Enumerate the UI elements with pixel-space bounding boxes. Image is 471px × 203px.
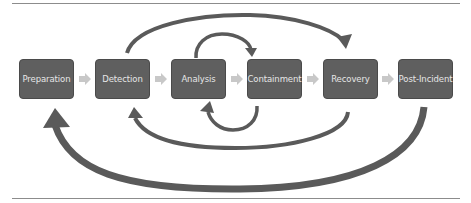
right-arrow-icon xyxy=(382,73,394,85)
arrow-recovery-to-detection xyxy=(128,107,348,148)
step-label: Detection xyxy=(102,74,142,84)
step-label: Containment xyxy=(248,74,302,84)
arrow-containment-to-analysis xyxy=(200,101,257,130)
right-arrow-icon xyxy=(155,73,167,85)
step-analysis: Analysis xyxy=(171,59,226,99)
step-post-incident: Post-Incident xyxy=(398,59,453,99)
step-recovery: Recovery xyxy=(323,59,378,99)
feedback-arrows-layer xyxy=(0,0,471,203)
step-detection: Detection xyxy=(95,59,150,99)
arrow-detection-to-recovery xyxy=(127,15,352,53)
right-arrow-icon xyxy=(79,73,91,85)
arrow-analysis-to-containment xyxy=(196,34,257,58)
step-label: Post-Incident xyxy=(399,74,453,84)
step-label: Preparation xyxy=(22,74,70,84)
step-containment: Containment xyxy=(247,59,302,99)
step-label: Analysis xyxy=(181,74,215,84)
right-arrow-icon xyxy=(231,73,243,85)
right-arrow-icon xyxy=(307,73,319,85)
step-preparation: Preparation xyxy=(19,59,74,99)
step-label: Recovery xyxy=(331,74,370,84)
